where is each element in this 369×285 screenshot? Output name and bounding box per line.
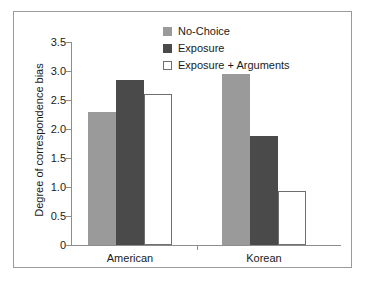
legend-swatch-icon bbox=[163, 44, 172, 53]
plot-area: Degree of correspondence bias 3.53.02.52… bbox=[0, 0, 369, 285]
bar-american-series-2 bbox=[144, 94, 172, 245]
y-axis-tick-mark bbox=[66, 187, 71, 188]
x-axis-label-american: American bbox=[88, 252, 172, 264]
bar-american-series-1 bbox=[116, 80, 144, 245]
bar-american-series-0 bbox=[88, 112, 116, 245]
y-axis-tick-label: 0 bbox=[60, 240, 66, 251]
y-axis-tick-mark bbox=[66, 100, 71, 101]
chart-figure: Degree of correspondence bias 3.53.02.52… bbox=[0, 0, 369, 285]
legend-item: No-Choice bbox=[163, 24, 290, 38]
legend-item-label: Exposure bbox=[178, 43, 224, 54]
y-axis-tick-label: 3.5 bbox=[51, 37, 66, 48]
legend-swatch-icon bbox=[163, 27, 172, 36]
legend-item-label: No-Choice bbox=[178, 26, 230, 37]
y-axis-tick-label: 1.0 bbox=[51, 182, 66, 193]
bar-korean-series-0 bbox=[222, 74, 250, 245]
legend-item-label: Exposure + Arguments bbox=[178, 60, 290, 71]
y-axis-tick-mark bbox=[66, 158, 71, 159]
legend-swatch-icon bbox=[163, 61, 172, 70]
bar-korean-series-2 bbox=[278, 191, 306, 245]
y-axis-tick-mark bbox=[66, 245, 71, 246]
legend-item: Exposure bbox=[163, 41, 290, 55]
y-axis-tick-label: 1.5 bbox=[51, 153, 66, 164]
y-axis-tick-mark bbox=[66, 216, 71, 217]
y-axis-title: Degree of correspondence bias bbox=[33, 60, 45, 220]
y-axis-tick-label: 3.0 bbox=[51, 66, 66, 77]
legend-item: Exposure + Arguments bbox=[163, 58, 290, 72]
y-axis-line bbox=[71, 42, 72, 246]
y-axis-tick-label: 2.5 bbox=[51, 95, 66, 106]
x-axis-label-korean: Korean bbox=[222, 252, 306, 264]
y-axis-tick-mark bbox=[66, 129, 71, 130]
chart-legend: No-ChoiceExposureExposure + Arguments bbox=[163, 24, 290, 75]
y-axis-tick-label: 2.0 bbox=[51, 124, 66, 135]
y-axis-tick-label: 0.5 bbox=[51, 211, 66, 222]
y-axis-tick-mark bbox=[66, 71, 71, 72]
bar-korean-series-1 bbox=[250, 136, 278, 245]
x-axis-line bbox=[71, 245, 341, 246]
x-axis-group-divider-tick bbox=[197, 245, 198, 250]
y-axis-tick-mark bbox=[66, 42, 71, 43]
